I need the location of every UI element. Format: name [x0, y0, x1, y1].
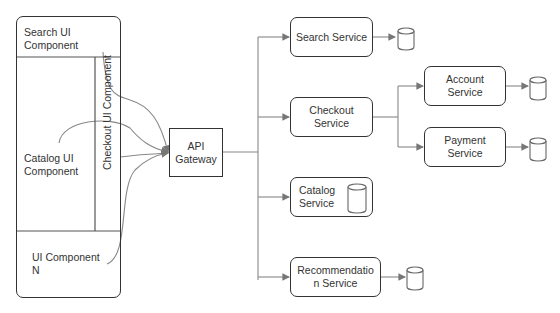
recommendation-service[interactable]: Recommendatio n Service — [290, 257, 381, 297]
catalog-database-icon — [346, 183, 368, 215]
search-ui-label-line1: Search UI — [24, 26, 78, 39]
api-gateway-label-line1: API — [175, 140, 216, 153]
catalog-service-label-line1: Catalog — [299, 184, 335, 197]
ui-n-label-line1: UI Component — [32, 251, 100, 264]
payment-service-label-line1: Payment — [444, 134, 485, 147]
checkout-ui-component[interactable]: Checkout UI Component — [101, 55, 113, 170]
catalog-service-label-line2: Service — [299, 197, 335, 210]
recommendation-service-label-line1: Recommendatio — [297, 264, 373, 277]
catalog-ui-label-line2: Component — [24, 165, 78, 178]
checkout-service-label-line2: Service — [309, 117, 353, 130]
checkout-service[interactable]: Checkout Service — [290, 97, 373, 137]
account-service-label-line2: Service — [446, 86, 484, 99]
payment-service[interactable]: Payment Service — [424, 127, 506, 167]
ui-n-label-line2: N — [32, 264, 100, 277]
search-ui-label-line2: Component — [24, 39, 78, 52]
checkout-service-label-line1: Checkout — [309, 104, 353, 117]
recommendation-service-label-line2: n Service — [297, 277, 373, 290]
api-gateway[interactable]: API Gateway — [169, 128, 223, 177]
payment-service-label-line2: Service — [444, 147, 485, 160]
catalog-ui-component[interactable]: Catalog UI Component — [24, 152, 78, 178]
search-ui-component[interactable]: Search UI Component — [24, 26, 78, 52]
account-service-label-line1: Account — [446, 73, 484, 86]
ui-component-n[interactable]: UI Component N — [32, 251, 100, 277]
catalog-ui-label-line1: Catalog UI — [24, 152, 78, 165]
api-gateway-label-line2: Gateway — [175, 153, 216, 166]
search-service-label: Search Service — [296, 31, 367, 44]
search-service[interactable]: Search Service — [290, 17, 373, 57]
account-service[interactable]: Account Service — [424, 66, 506, 106]
